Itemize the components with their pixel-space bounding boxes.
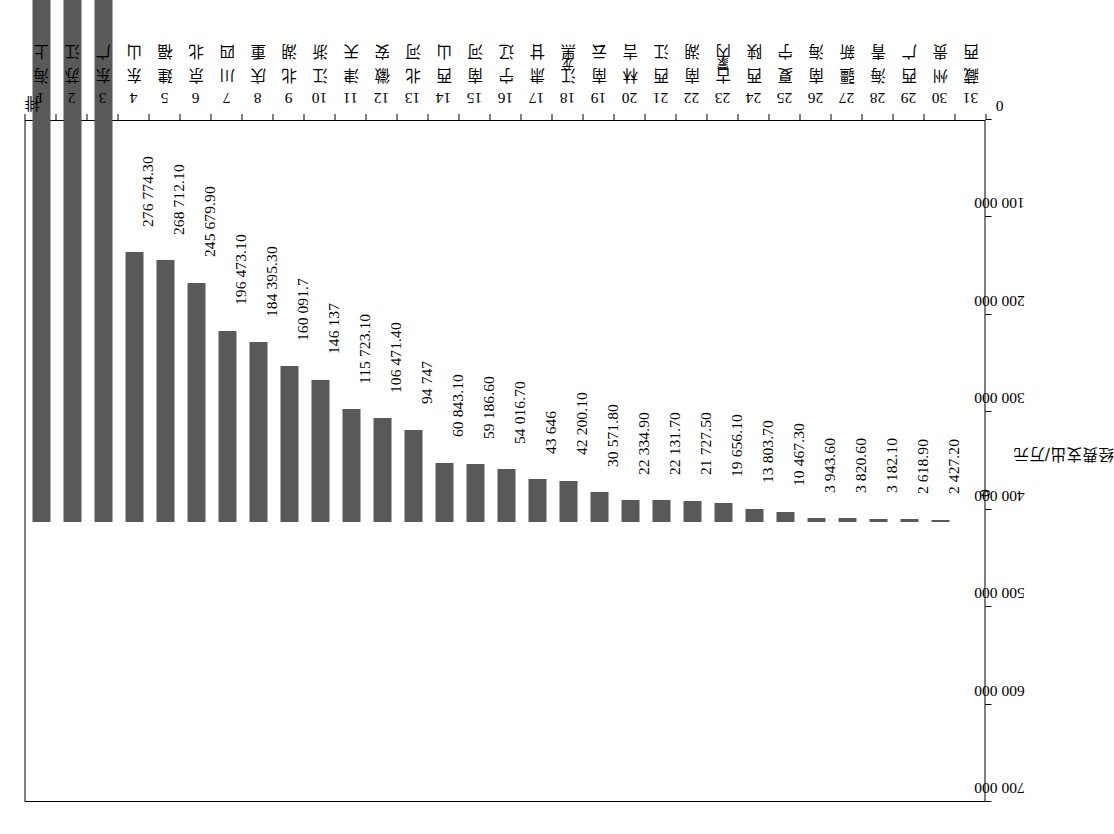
bar-value-label: 146 137 bbox=[325, 303, 341, 354]
bar-value-label: 43 646 bbox=[542, 411, 558, 454]
bar[interactable] bbox=[900, 519, 918, 522]
value-axis-tick-label: 100 000 bbox=[974, 196, 1024, 212]
bar[interactable] bbox=[776, 512, 794, 522]
bar[interactable] bbox=[249, 342, 267, 522]
value-axis-tick bbox=[985, 314, 991, 315]
value-axis-tick bbox=[985, 704, 991, 705]
bar[interactable] bbox=[218, 331, 236, 522]
category-axis-tick bbox=[613, 114, 614, 120]
category-rank-label: 5 bbox=[160, 91, 168, 107]
category-axis-tick bbox=[892, 114, 893, 120]
category-name-label: 浙 bbox=[311, 43, 327, 59]
bar[interactable] bbox=[311, 380, 329, 522]
category-name-label: 川 bbox=[218, 67, 234, 83]
category-rank-label: 26 bbox=[807, 91, 823, 107]
category-rank-label: 15 bbox=[466, 91, 482, 107]
category-rank-label: 13 bbox=[404, 91, 420, 107]
value-axis-tick-label: 300 000 bbox=[974, 391, 1024, 407]
category-name-label: 京 bbox=[187, 67, 203, 83]
category-rank-label: 7 bbox=[222, 91, 230, 107]
chart-plot-frame: 583 135.30574 414.70569 733.40276 774.30… bbox=[24, 120, 985, 802]
category-name-label: 肃 bbox=[528, 67, 544, 83]
bar-value-label: 2 427.20 bbox=[945, 439, 961, 494]
category-name-label: 陕 bbox=[745, 43, 761, 59]
category-name-label: 西 bbox=[962, 43, 978, 59]
category-name-label: 南 bbox=[466, 67, 482, 83]
bar[interactable] bbox=[745, 509, 763, 522]
bar[interactable] bbox=[683, 501, 701, 522]
bar-value-label: 59 186.60 bbox=[480, 376, 496, 439]
category-name-label: 辽 bbox=[497, 43, 513, 59]
bar[interactable] bbox=[187, 283, 205, 522]
value-axis-tick bbox=[985, 801, 991, 802]
bar[interactable] bbox=[373, 418, 391, 522]
bar[interactable] bbox=[931, 520, 949, 522]
value-axis-tick bbox=[985, 606, 991, 607]
category-axis-tick bbox=[24, 114, 25, 120]
category-rank-label: 8 bbox=[253, 91, 261, 107]
category-rank-label: 29 bbox=[900, 91, 916, 107]
category-axis-tick bbox=[55, 114, 56, 120]
category-axis-tick bbox=[830, 114, 831, 120]
category-rank-label: 30 bbox=[931, 91, 947, 107]
category-axis-tick bbox=[427, 114, 428, 120]
bar[interactable] bbox=[652, 500, 670, 522]
category-name-label: 夏 bbox=[776, 67, 792, 83]
category-axis-tick bbox=[551, 114, 552, 120]
bar[interactable] bbox=[838, 518, 856, 522]
category-name-label: 州 bbox=[931, 67, 947, 83]
category-axis-tick bbox=[520, 114, 521, 120]
category-name-label: 西 bbox=[435, 67, 451, 83]
bar-value-label: 21 727.50 bbox=[697, 412, 713, 475]
category-rank-label: 16 bbox=[497, 91, 513, 107]
value-axis-title: 经费支出/万元 bbox=[1012, 446, 1113, 462]
category-name-label: 青 bbox=[869, 43, 885, 59]
category-axis-tick bbox=[737, 114, 738, 120]
value-axis-tick-label: 0 bbox=[995, 99, 1003, 115]
category-axis-tick bbox=[675, 114, 676, 120]
bar[interactable] bbox=[714, 503, 732, 522]
bar[interactable] bbox=[280, 366, 298, 522]
category-name-label: 广 bbox=[94, 43, 110, 59]
axis-header-rank: 排 bbox=[23, 94, 39, 110]
category-rank-label: 23 bbox=[714, 91, 730, 107]
category-rank-label: 3 bbox=[98, 91, 106, 107]
category-axis-tick bbox=[644, 114, 645, 120]
bar-value-label: 160 091.7 bbox=[294, 278, 310, 341]
bar[interactable] bbox=[156, 260, 174, 522]
category-name-label: 北 bbox=[280, 67, 296, 83]
category-name-label: 河 bbox=[404, 43, 420, 59]
bar[interactable] bbox=[621, 500, 639, 522]
category-name-label: 湖 bbox=[280, 43, 296, 59]
bar[interactable] bbox=[404, 430, 422, 522]
category-axis-tick bbox=[923, 114, 924, 120]
bar[interactable] bbox=[528, 479, 546, 522]
category-rank-label: 2 bbox=[67, 91, 75, 107]
bar[interactable] bbox=[497, 469, 515, 522]
category-axis-tick bbox=[117, 114, 118, 120]
category-axis-tick bbox=[241, 114, 242, 120]
category-name-label: 江 bbox=[652, 43, 668, 59]
category-axis-tick bbox=[272, 114, 273, 120]
bar-value-label: 30 571.80 bbox=[604, 404, 620, 467]
bar[interactable] bbox=[125, 252, 143, 522]
bar[interactable] bbox=[435, 463, 453, 522]
category-name-label: 上 bbox=[32, 43, 48, 59]
bar[interactable] bbox=[869, 519, 887, 522]
category-axis-tick bbox=[210, 114, 211, 120]
category-axis-tick bbox=[768, 114, 769, 120]
category-name-label: 藏 bbox=[962, 67, 978, 83]
category-name-label: 山 bbox=[125, 43, 141, 59]
category-axis-tick bbox=[396, 114, 397, 120]
category-name-label: 山 bbox=[435, 43, 451, 59]
bar[interactable] bbox=[466, 464, 484, 522]
bar[interactable] bbox=[342, 409, 360, 522]
bar[interactable] bbox=[559, 481, 577, 522]
bar[interactable] bbox=[807, 518, 825, 522]
bar[interactable] bbox=[590, 492, 608, 522]
bar-value-label: 42 200.10 bbox=[573, 392, 589, 455]
category-rank-label: 20 bbox=[621, 91, 637, 107]
category-name-label: 云 bbox=[590, 43, 606, 59]
category-name-label: 湖 bbox=[683, 43, 699, 59]
